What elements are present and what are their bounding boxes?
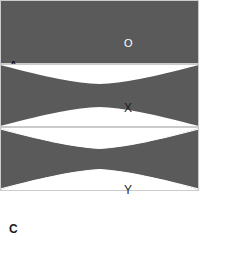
panel-a-fill — [0, 0, 199, 64]
annotation-o: O — [124, 38, 133, 49]
annotation-yx-leader-line — [130, 205, 180, 227]
leader-polyline — [132, 210, 175, 221]
annotation-y-minus-x: Y-X — [176, 211, 195, 222]
panel-b — [0, 64, 199, 127]
panel-label-c: C — [9, 223, 18, 235]
annotation-x: X — [124, 103, 132, 114]
figure-container: A O B X C Y Y-X — [0, 0, 240, 253]
panel-c — [0, 127, 199, 191]
panel-a — [0, 0, 199, 64]
panel-a-graphic — [0, 0, 199, 64]
panel-c-graphic — [0, 127, 199, 191]
annotation-y: Y — [124, 185, 132, 196]
panel-b-graphic — [0, 64, 199, 127]
